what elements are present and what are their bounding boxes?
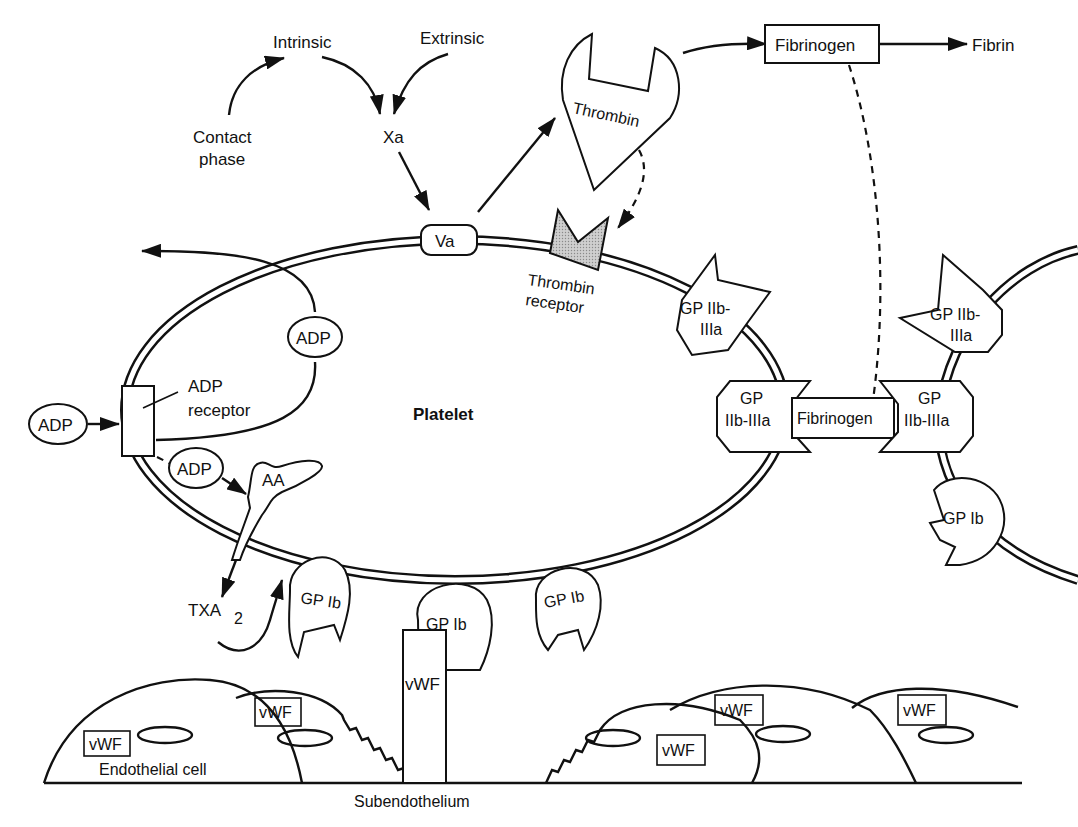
fibrinogen-to-bridge-dashed-arrow — [849, 65, 880, 420]
gp2b3a-top-label-2: IIIa — [700, 321, 722, 338]
adp-to-aa-arrow — [222, 478, 246, 494]
intrinsic-to-xa-arrow — [322, 57, 380, 114]
nucleus-3 — [586, 730, 640, 746]
vwf-column — [403, 630, 446, 783]
adp-lower-label: ADP — [177, 460, 212, 479]
contact-phase-label-2: phase — [199, 150, 245, 169]
contact-to-intrinsic-arrow — [229, 58, 284, 115]
gp2b3a-bridge-left-label-1: GP — [740, 390, 763, 407]
second-gp2b3a-top-label-2: IIIa — [950, 327, 972, 344]
second-gp2b3a-bridge-label-1: GP — [918, 390, 941, 407]
adp-inside-label: ADP — [296, 329, 331, 348]
fibrin-label: Fibrin — [972, 36, 1015, 55]
txa2-label: TXA — [188, 601, 222, 620]
xa-label: Xa — [383, 128, 404, 147]
va-label: Va — [435, 232, 455, 251]
xa-to-va-arrow — [399, 152, 429, 210]
vwf-label-2: vWF — [259, 704, 292, 721]
subendothelium-label: Subendothelium — [354, 793, 470, 810]
nucleus-2 — [278, 730, 332, 746]
second-gp1b-label: GP Ib — [943, 510, 984, 527]
thrombin-receptor-icon — [550, 210, 608, 270]
platelet-coagulation-diagram: Intrinsic Extrinsic Contact phase Xa Thr… — [0, 0, 1078, 827]
adp-receptor-label-1: ADP — [188, 377, 223, 396]
aa-label: AA — [262, 471, 285, 490]
va-to-thrombin-arrow — [478, 118, 555, 212]
endothelial-cell-4 — [670, 686, 916, 783]
second-gp2b3a-top-label-1: GP IIb- — [930, 306, 980, 323]
adp-receptor-icon — [122, 386, 154, 456]
vwf-label-1: vWF — [89, 736, 122, 753]
vwf-label-4: vWF — [720, 702, 753, 719]
gp2b3a-bridge-left-label-2: IIb-IIIa — [725, 412, 770, 429]
platelet-label: Platelet — [413, 405, 474, 424]
vessel-wall: vWF vWF vWF vWF vWF vWF Endothelial cell… — [44, 630, 1022, 810]
fibrinogen-bridge-label: Fibrinogen — [797, 410, 873, 427]
adp-receptor-label-2: receptor — [188, 401, 251, 420]
vwf-column-label: vWF — [405, 675, 440, 694]
vwf-label-3: vWF — [662, 742, 695, 759]
extrinsic-to-xa-arrow — [394, 54, 448, 114]
extrinsic-label: Extrinsic — [420, 29, 485, 48]
adp-outside-label: ADP — [38, 416, 73, 435]
txa2-to-platelet-arrow — [218, 580, 282, 651]
txa2-subscript: 2 — [234, 610, 243, 627]
thrombin-to-fibrinogen-arrow — [683, 44, 766, 53]
endothelial-cell-label: Endothelial cell — [99, 761, 207, 778]
second-gp2b3a-bridge-label-2: IIb-IIIa — [904, 412, 949, 429]
contact-phase-label-1: Contact — [193, 128, 252, 147]
aa-to-txa2-arrow — [222, 560, 236, 597]
gp2b3a-top-label-1: GP IIb- — [680, 300, 730, 317]
platelet: Platelet Va Thrombin receptor ADP ADP re… — [29, 210, 810, 670]
fibrinogen-label: Fibrinogen — [775, 36, 855, 55]
second-platelet: GP IIb- IIIa GP IIb-IIIa GP Ib — [880, 250, 1078, 580]
nucleus-1 — [138, 727, 192, 743]
nucleus-5 — [919, 727, 973, 743]
nucleus-4 — [756, 726, 810, 742]
intrinsic-label: Intrinsic — [273, 33, 332, 52]
vwf-label-5: vWF — [903, 702, 936, 719]
